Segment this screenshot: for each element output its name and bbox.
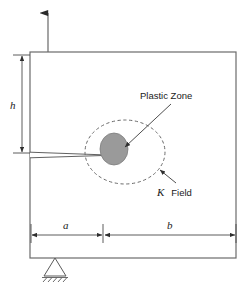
k-field-symbol: K	[156, 186, 165, 198]
b-label: b	[167, 219, 173, 231]
plastic-zone-label: Plastic Zone	[140, 90, 192, 101]
support-hatch	[63, 278, 67, 283]
dimension-h: h	[10, 55, 30, 153]
support-hatch	[53, 278, 57, 283]
support-hatch	[43, 278, 47, 283]
support-hatch	[58, 278, 62, 283]
support-triangle	[44, 258, 66, 276]
k-field-word: Field	[171, 187, 192, 198]
plastic-zone-ellipse	[100, 133, 128, 165]
a-label: a	[63, 219, 69, 231]
h-label: h	[10, 99, 16, 111]
support-hatch	[48, 278, 52, 283]
roller-support	[42, 258, 68, 282]
fracture-mechanics-figure: Plastic Zone K Field h a b	[0, 0, 246, 292]
figure-canvas: Plastic Zone K Field h a b	[0, 0, 246, 292]
